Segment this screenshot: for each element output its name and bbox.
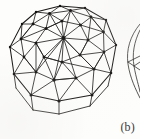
mesh-node [110, 72, 113, 75]
mesh-node [91, 94, 94, 97]
mesh-node-apex [61, 36, 65, 40]
mesh-node [75, 77, 78, 80]
mesh-node [20, 38, 23, 41]
mesh-node [43, 56, 46, 59]
mesh-node [59, 5, 61, 7]
mesh-node [79, 54, 82, 57]
mesh-node [57, 99, 60, 102]
mesh-node [35, 11, 37, 13]
mesh-node [32, 23, 35, 26]
geodesic-dome-mesh-svg [0, 0, 140, 139]
mesh-node [23, 56, 26, 59]
figure-panel-b: (b) [0, 0, 140, 139]
mesh-node [9, 46, 11, 48]
mesh-node [30, 94, 33, 97]
mesh-edges-group [10, 6, 116, 114]
mesh-node [69, 9, 72, 12]
mesh-node [105, 19, 107, 21]
mesh-node [35, 71, 38, 74]
mesh-node [60, 60, 63, 63]
mesh-node [115, 44, 117, 46]
subfigure-label: (b) [120, 121, 135, 133]
mesh-node [103, 51, 106, 54]
mesh-node [52, 78, 55, 81]
mesh-node [48, 12, 51, 15]
mesh-node [102, 31, 105, 34]
mesh-node [87, 39, 90, 42]
mesh-node [61, 20, 64, 23]
mesh-node [21, 23, 23, 25]
mesh-node [45, 27, 48, 30]
mesh-node [84, 7, 86, 9]
mesh-node [90, 16, 93, 19]
mesh-node [13, 73, 16, 76]
mesh-node [79, 24, 82, 27]
mesh-node [92, 67, 95, 70]
partial-adjacent-figure [128, 24, 141, 98]
mesh-node [35, 42, 38, 45]
